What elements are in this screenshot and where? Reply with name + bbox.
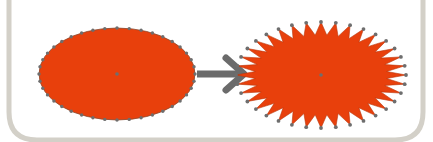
vertex-node [235,64,239,68]
vertex-node [239,91,243,95]
vertex-node [362,27,366,31]
vertex-node [290,23,294,27]
vertex-node [403,64,407,68]
vertex-node [239,55,243,59]
vertex-node [80,31,83,34]
vertex-node [265,114,269,118]
vertex-node [304,125,308,129]
vertex-node [190,58,193,61]
vertex-node [46,51,49,54]
vertex-node [103,118,106,121]
starburst-center-node [319,73,323,77]
vertex-node [393,47,397,51]
source-ellipse [37,26,196,121]
vertex-node [60,105,63,108]
vertex-node [192,80,195,83]
vertex-node [91,116,94,119]
vertex-node [185,93,188,96]
vertex-node [171,105,174,108]
vertex-node [41,87,44,90]
vertex-node [254,107,258,111]
vertex-node [304,21,308,25]
vertex-node [374,114,378,118]
vertex-node [151,113,154,116]
vertex-node [115,26,118,29]
vertex-node [139,29,142,32]
vertex-node [393,100,397,104]
vertex-node [374,33,378,37]
vertex-node [161,35,164,38]
vertex-node [290,123,294,127]
target-starburst [234,20,408,130]
vertex-node [103,27,106,30]
vertex-node [234,73,238,77]
vertex-node [139,116,142,119]
vertex-node [399,55,403,59]
vertex-node [178,99,181,102]
diagram-canvas [0,0,433,142]
vertex-node [254,39,258,43]
vertex-node [46,93,49,96]
vertex-node [246,100,250,104]
vertex-node [384,39,388,43]
vertex-node [192,65,195,68]
vertex-node [246,47,250,51]
vertex-node [70,110,73,113]
vertex-node [362,119,366,123]
vertex-node [161,110,164,113]
vertex-node [151,31,154,34]
vertex-node [37,72,40,75]
vertex-node [403,82,407,86]
vertex-node [52,45,55,48]
vertex-node [185,51,188,54]
vertex-node [384,107,388,111]
vertex-node [52,99,55,102]
vertex-node [348,23,352,27]
vertex-node [115,118,118,121]
vertex-node [404,73,408,77]
vertex-node [277,119,281,123]
vertex-node [399,91,403,95]
vertex-node [70,35,73,38]
vertex-node [348,123,352,127]
vertex-node [319,20,323,24]
vertex-node [319,126,323,130]
vertex-node [190,87,193,90]
vertex-node [91,29,94,32]
vertex-node [334,21,338,25]
vertex-node [80,113,83,116]
vertex-node [60,40,63,43]
ellipse-center-node [115,72,119,76]
vertex-node [38,65,41,68]
vertex-node [41,58,44,61]
vertex-node [171,40,174,43]
vertex-node [193,72,196,75]
vertex-node [265,33,269,37]
vertex-node [38,80,41,83]
vertex-node [235,82,239,86]
vertex-node [128,118,131,121]
vertex-node [178,45,181,48]
vertex-node [128,27,131,30]
vertex-node [277,27,281,31]
vertex-node [334,125,338,129]
